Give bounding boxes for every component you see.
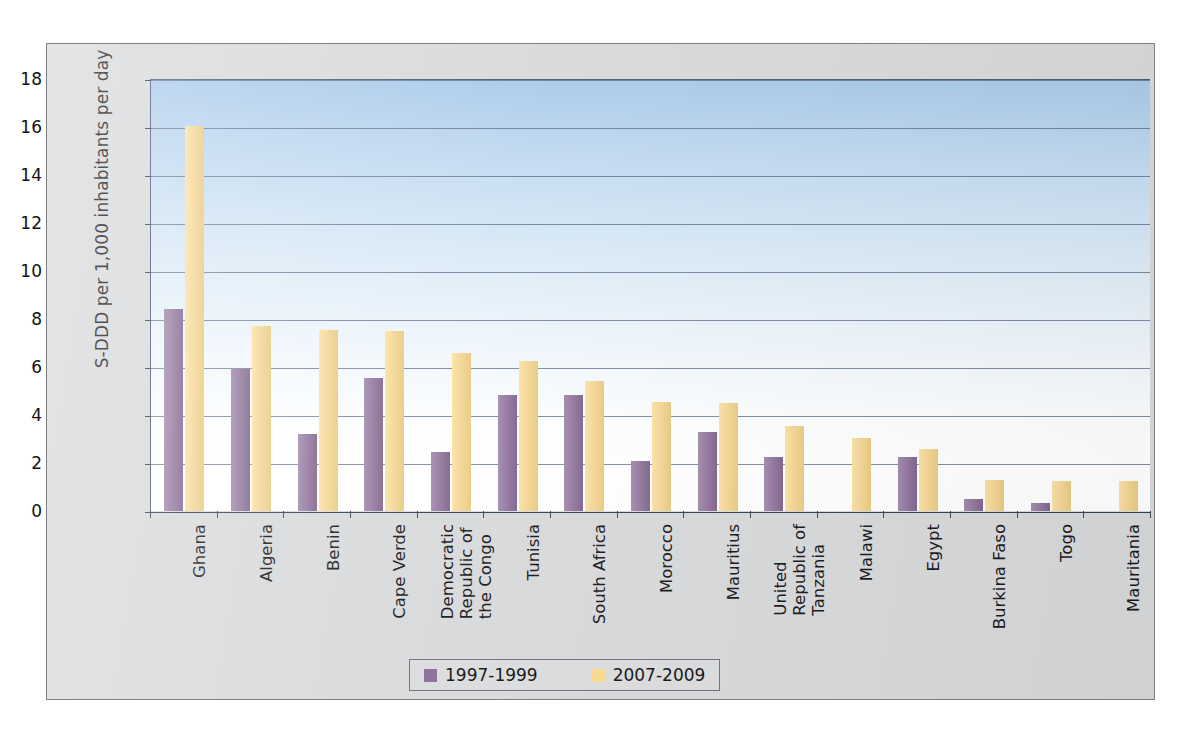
bar [385, 331, 404, 511]
x-axis-label: Ghana [190, 524, 209, 578]
legend-label: 2007-2009 [613, 665, 706, 685]
gridline-4 [151, 416, 1150, 417]
x-tick-mark [950, 511, 951, 518]
bar [698, 432, 717, 511]
bar [498, 395, 517, 511]
y-tick-mark-18 [145, 80, 151, 81]
y-tick-mark-12 [145, 224, 151, 225]
x-tick-mark [683, 511, 684, 518]
x-tick-mark [617, 511, 618, 518]
x-tick-mark [217, 511, 218, 518]
x-tick-mark [1083, 511, 1084, 518]
x-tick-mark [883, 511, 884, 518]
y-tick-label: 18 [2, 69, 42, 89]
y-tick-mark-10 [145, 272, 151, 273]
y-tick-label: 12 [2, 213, 42, 233]
legend-label: 1997-1999 [445, 665, 538, 685]
x-axis-label: Burkina Faso [990, 524, 1009, 629]
bar [519, 361, 538, 511]
x-axis-label: Benin [324, 524, 343, 571]
chart-legend: 1997-19992007-2009 [409, 659, 720, 691]
x-axis-label: Democratic Republic of the Congo [438, 524, 495, 619]
bar [364, 378, 383, 511]
bar [652, 402, 671, 511]
bar [785, 426, 804, 511]
bar [1119, 481, 1138, 511]
bar [964, 499, 983, 511]
y-tick-mark-16 [145, 128, 151, 129]
x-tick-mark [417, 511, 418, 518]
bar [919, 449, 938, 511]
plot-area [150, 79, 1150, 511]
x-axis-label: Mauritania [1124, 524, 1143, 612]
gridline-14 [151, 176, 1150, 177]
y-axis-title: S-DDD per 1,000 inhabitants per day [92, 0, 112, 424]
x-axis-label: South Africa [590, 524, 609, 624]
bar [252, 326, 271, 511]
legend-entry: 1997-1999 [424, 665, 538, 685]
y-tick-label: 6 [2, 357, 42, 377]
bar [764, 457, 783, 511]
gridline-16 [151, 128, 1150, 129]
x-axis-label: Egypt [924, 524, 943, 572]
bar [185, 126, 204, 511]
gridline-12 [151, 224, 1150, 225]
y-tick-label: 2 [2, 453, 42, 473]
gridline-8 [151, 320, 1150, 321]
bar [852, 438, 871, 511]
y-tick-mark-6 [145, 368, 151, 369]
bar [719, 403, 738, 511]
bar [898, 457, 917, 511]
x-tick-mark [1017, 511, 1018, 518]
gridline-18 [151, 80, 1150, 81]
x-tick-mark [750, 511, 751, 518]
y-tick-label: 14 [2, 165, 42, 185]
x-tick-mark [150, 511, 151, 518]
bar [298, 434, 317, 511]
bar [1052, 481, 1071, 511]
x-axis-label: Tunisia [524, 524, 543, 580]
gridline-0 [151, 512, 1150, 513]
y-tick-label: 8 [2, 309, 42, 329]
bar [231, 369, 250, 511]
x-tick-mark [350, 511, 351, 518]
legend-entry: 2007-2009 [592, 665, 706, 685]
bar [452, 353, 471, 511]
page-root: S-DDD per 1,000 inhabitants per day 0246… [0, 0, 1194, 730]
bar [431, 452, 450, 511]
bar [1031, 503, 1050, 511]
x-tick-mark [1150, 511, 1151, 518]
bar [164, 309, 183, 511]
y-tick-mark-8 [145, 320, 151, 321]
legend-swatch-icon [592, 669, 605, 682]
y-tick-label: 4 [2, 405, 42, 425]
x-tick-mark [550, 511, 551, 518]
x-tick-mark [483, 511, 484, 518]
bar [319, 330, 338, 511]
y-tick-mark-2 [145, 464, 151, 465]
bar [564, 395, 583, 511]
x-axis-label: Algeria [257, 524, 276, 582]
y-tick-mark-4 [145, 416, 151, 417]
y-tick-mark-14 [145, 176, 151, 177]
x-axis-label: Cape Verde [390, 524, 409, 619]
bar [585, 381, 604, 511]
x-tick-mark [283, 511, 284, 518]
chart-frame: S-DDD per 1,000 inhabitants per day 0246… [46, 43, 1155, 700]
y-tick-label: 16 [2, 117, 42, 137]
x-axis-label: Mauritius [724, 524, 743, 600]
x-axis-label: Malawi [857, 524, 876, 581]
x-tick-mark [817, 511, 818, 518]
legend-swatch-icon [424, 669, 437, 682]
x-axis-label: Togo [1057, 524, 1076, 562]
y-tick-label: 0 [2, 501, 42, 521]
bar [631, 461, 650, 511]
y-tick-label: 10 [2, 261, 42, 281]
gridline-6 [151, 368, 1150, 369]
x-axis-label: Morocco [657, 524, 676, 593]
x-axis-label: United Republic of Tanzania [771, 524, 828, 616]
gridline-10 [151, 272, 1150, 273]
bar [985, 480, 1004, 511]
